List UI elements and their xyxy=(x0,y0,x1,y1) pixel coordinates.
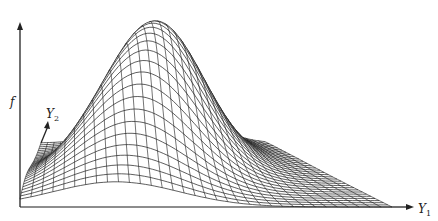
f-axis-label: f xyxy=(10,96,14,108)
y2-axis-label-text: Y xyxy=(46,107,54,121)
y2-axis-line xyxy=(41,126,48,143)
y1-axis-arrow-icon xyxy=(406,204,414,210)
y2-axis-label: Y2 xyxy=(46,108,59,123)
y2-axis-subscript: 2 xyxy=(54,114,59,123)
y1-axis-label: Y1 xyxy=(418,203,431,218)
wireframe-surface-plot xyxy=(0,0,438,221)
f-axis-arrow-icon xyxy=(17,22,23,30)
density-surface-figure: f Y2 Y1 xyxy=(0,0,438,221)
y1-axis-subscript: 1 xyxy=(426,209,431,218)
wireframe-mesh xyxy=(20,21,392,207)
y1-axis-label-text: Y xyxy=(418,202,426,216)
f-axis-label-text: f xyxy=(10,95,14,109)
